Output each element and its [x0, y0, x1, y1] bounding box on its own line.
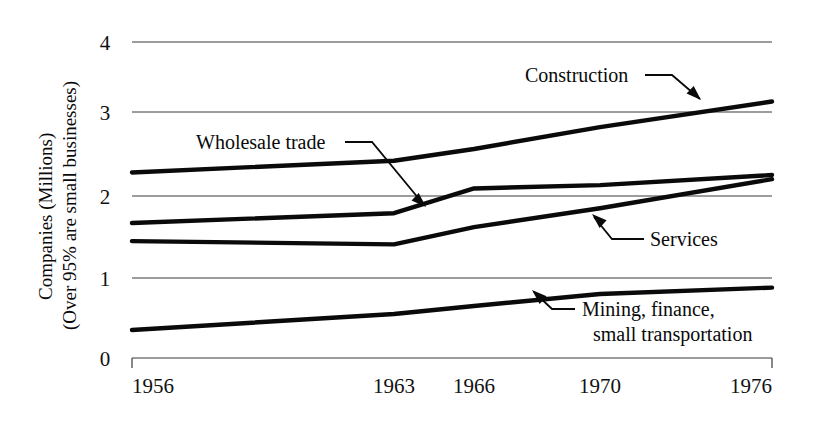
y-tick-label-2: 2 — [100, 185, 111, 209]
x-tick-label-1976: 1976 — [730, 374, 772, 398]
annotation-label-mining-finance-line2: small transportation — [593, 323, 752, 346]
x-tick-label-1966: 1966 — [453, 374, 495, 398]
x-tick-label-1963: 1963 — [373, 374, 415, 398]
arrowhead-construction — [687, 86, 701, 100]
annotation-label-wholesale-trade: Wholesale trade — [196, 131, 325, 153]
y-tick-label-4: 4 — [100, 31, 111, 55]
x-tick-labels: 1956 1963 1966 1970 1976 — [132, 374, 772, 398]
annotation-label-mining-finance-line1: Mining, finance, — [582, 298, 715, 321]
y-axis-title-line2: (Over 95% are small businesses) — [59, 81, 81, 330]
x-axis — [132, 358, 772, 368]
annotation-labels: Construction Wholesale trade Services Mi… — [196, 64, 752, 346]
annotation-label-services: Services — [650, 228, 718, 250]
x-tick-label-1956: 1956 — [132, 374, 174, 398]
y-axis-title: Companies (Millions) (Over 95% are small… — [35, 81, 81, 330]
y-tick-labels: 4 3 2 1 0 — [100, 31, 111, 371]
y-axis-title-line1: Companies (Millions) — [35, 133, 57, 300]
line-chart: Companies (Millions) (Over 95% are small… — [0, 0, 814, 421]
series-line-wholesale-trade — [132, 175, 772, 223]
annotation-leaders — [345, 75, 701, 309]
annotation-label-construction: Construction — [525, 64, 628, 86]
y-tick-label-0: 0 — [100, 347, 111, 371]
y-tick-label-3: 3 — [100, 101, 111, 125]
y-tick-label-1: 1 — [100, 267, 111, 291]
arrowhead-services — [592, 214, 607, 228]
chart-container: Companies (Millions) (Over 95% are small… — [0, 0, 814, 421]
x-tick-label-1970: 1970 — [579, 374, 621, 398]
